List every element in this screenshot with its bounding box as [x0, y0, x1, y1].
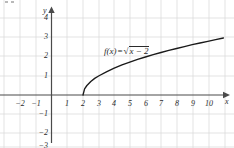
x-tick-label-3: 3 [97, 100, 101, 108]
y-tick-label-neg2: −2 [32, 129, 48, 137]
y-tick-label-neg1: −1 [32, 110, 48, 118]
y-axis-arrow [48, 7, 54, 14]
y-tick-label-1: 1 [38, 72, 48, 80]
equation-equals-sign: = [117, 46, 124, 56]
radicand-group: x − 2 [129, 46, 149, 56]
radical-overbar [129, 46, 149, 47]
equation-function-name: f(x) [104, 46, 117, 56]
function-equation-label: f(x)=√x − 2 [104, 46, 149, 56]
x-axis-name: x [225, 98, 229, 106]
radicand-text: x − 2 [129, 46, 149, 56]
x-tick-label-1: 1 [65, 100, 69, 108]
x-tick-label-neg1: −1 [31, 100, 40, 108]
x-tick-label-5: 5 [128, 100, 132, 108]
y-tick-label-3: 3 [38, 33, 48, 41]
x-tick-label-9: 9 [191, 100, 195, 108]
x-tick-label-neg2: −2 [15, 100, 24, 108]
graph-figure: y x 4 3 2 1 −1 −2 −3 −2 −1 1 2 3 4 5 6 7… [0, 0, 234, 148]
x-tick-label-8: 8 [175, 100, 179, 108]
plot-area [0, 0, 234, 148]
y-tick-label-4: 4 [38, 14, 48, 22]
y-tick-label-neg3: −3 [32, 142, 48, 148]
x-tick-label-6: 6 [144, 100, 148, 108]
x-tick-label-10: 10 [205, 100, 213, 108]
x-tick-label-7: 7 [159, 100, 163, 108]
x-tick-label-2: 2 [81, 100, 85, 108]
y-tick-label-2: 2 [38, 52, 48, 60]
x-tick-label-4: 4 [112, 100, 116, 108]
